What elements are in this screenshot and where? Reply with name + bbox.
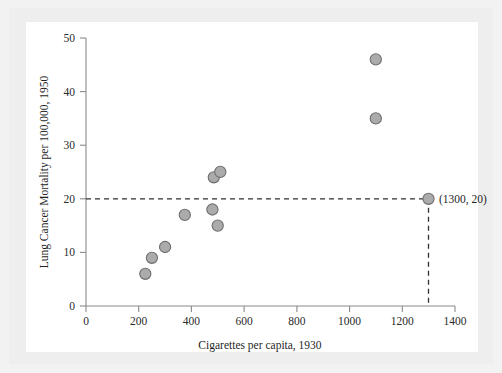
y-tick-label-10: 10 <box>64 246 76 258</box>
reference-lines-group <box>86 199 429 306</box>
y-tick-label-30: 30 <box>64 139 76 151</box>
x-tick-label-1400: 1400 <box>444 315 467 327</box>
data-point[interactable] <box>179 209 190 220</box>
x-tick-label-0: 0 <box>83 315 89 327</box>
data-point[interactable] <box>212 220 223 231</box>
x-axis-tick-labels: 0 200 400 600 800 1000 1200 1400 <box>83 315 467 327</box>
y-tick-label-50: 50 <box>64 32 76 44</box>
x-axis-ticks <box>86 306 455 312</box>
axes-group <box>86 38 455 306</box>
x-tick-label-400: 400 <box>183 315 201 327</box>
data-point[interactable] <box>140 268 151 279</box>
scatter-chart: 50 40 30 20 10 0 0 200 400 600 800 1000 <box>0 0 502 373</box>
data-point[interactable] <box>370 54 381 65</box>
x-tick-label-200: 200 <box>130 315 148 327</box>
y-tick-label-0: 0 <box>69 300 75 312</box>
data-point[interactable] <box>370 113 381 124</box>
y-axis-title: Lung Cancer Mortality per 100,000, 1950 <box>38 75 51 268</box>
data-point[interactable] <box>160 241 171 252</box>
x-tick-label-1200: 1200 <box>391 315 414 327</box>
page-root: 50 40 30 20 10 0 0 200 400 600 800 1000 <box>0 0 502 373</box>
y-tick-label-40: 40 <box>64 86 76 98</box>
data-point[interactable] <box>207 204 218 215</box>
data-point[interactable] <box>146 252 157 263</box>
data-points-group <box>140 54 382 280</box>
y-tick-label-20: 20 <box>64 193 76 205</box>
x-axis-title: Cigarettes per capita, 1930 <box>198 339 322 352</box>
y-axis-ticks <box>80 38 86 306</box>
data-point[interactable] <box>215 166 226 177</box>
x-tick-label-600: 600 <box>235 315 253 327</box>
x-tick-label-800: 800 <box>288 315 306 327</box>
annotation-label: (1300, 20) <box>439 193 487 206</box>
x-tick-label-1000: 1000 <box>338 315 361 327</box>
highlighted-data-point[interactable] <box>423 193 434 204</box>
y-axis-tick-labels: 50 40 30 20 10 0 <box>64 32 76 312</box>
